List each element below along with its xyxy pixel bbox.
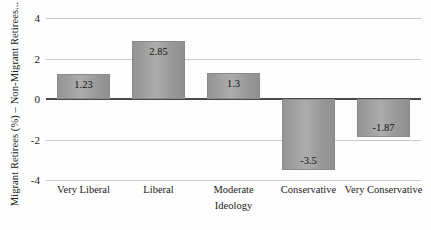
bar-value-label: 1.23	[58, 79, 109, 90]
x-axis-tick-label: Conservative	[281, 184, 336, 195]
bar-value-label: -3.5	[283, 155, 334, 166]
y-axis-tick-label: 0	[0, 93, 40, 105]
gridline	[46, 140, 421, 141]
bar: 1.3	[207, 73, 260, 99]
x-axis-tick-label: Very Conservative	[345, 184, 423, 195]
y-axis-tick-label: -2	[0, 134, 40, 146]
gridline	[46, 180, 421, 181]
bar: 2.85	[132, 41, 185, 99]
bar-chart: Migrant Retirees (%) – Non-Migrant Retir…	[0, 0, 431, 230]
y-axis-tick-label: 4	[0, 12, 40, 24]
bar-value-label: 1.3	[208, 78, 259, 89]
gridline	[46, 59, 421, 60]
bar: -1.87	[357, 99, 410, 137]
gridline	[46, 18, 421, 19]
bar: -3.5	[282, 99, 335, 170]
bar-value-label: 2.85	[133, 46, 184, 57]
x-axis-title: Ideology	[46, 200, 421, 211]
x-axis-tick-label: Liberal	[143, 184, 173, 195]
y-axis-tick-label: 2	[0, 53, 40, 65]
plot-area: 420-2-41.232.851.3-3.5-1.87	[46, 18, 421, 180]
y-axis-tick-label: -4	[0, 174, 40, 186]
bar: 1.23	[57, 74, 110, 99]
bar-value-label: -1.87	[358, 122, 409, 133]
x-axis-tick-label: Very Liberal	[57, 184, 110, 195]
x-axis-tick-label: Moderate	[213, 184, 253, 195]
